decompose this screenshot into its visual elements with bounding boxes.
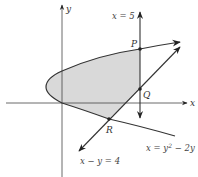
- diagram-canvas: y x x = 5 P Q R x − y = 4 x = y2 − 2y: [0, 0, 198, 177]
- point-R-label: R: [105, 125, 113, 135]
- parabola-label-main: x = y: [146, 143, 168, 153]
- parabola-label-tail: − 2y: [172, 143, 195, 153]
- point-P-label: P: [130, 39, 138, 49]
- vertical-line-label: x = 5: [112, 11, 135, 21]
- point-P: [138, 47, 142, 51]
- parabola-label: x = y2 − 2y: [146, 142, 195, 153]
- line-label: x − y = 4: [80, 156, 120, 166]
- y-axis-label: y: [65, 4, 72, 14]
- x-axis-label: x: [190, 98, 195, 108]
- point-Q-label: Q: [143, 90, 151, 100]
- point-Q: [138, 87, 142, 91]
- point-R: [107, 117, 111, 121]
